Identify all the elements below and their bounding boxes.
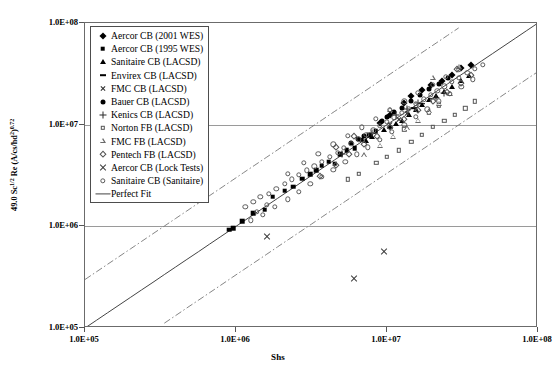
legend-item-label: Aercor CB (1995 WES) [111, 42, 203, 55]
legend-item[interactable]: Aercor CB (2001 WES) [94, 29, 203, 42]
data-point [346, 177, 350, 181]
data-point [452, 113, 456, 117]
data-point [231, 226, 236, 231]
triangle-filled-icon [94, 55, 111, 68]
y-axis-title: 49.0 Sc1/2 Re (A/cs/hd2)0.72 [9, 65, 19, 265]
legend-item[interactable]: Sanitaire CB (LACSD) [94, 55, 203, 68]
data-point [350, 274, 358, 282]
plus-icon [94, 108, 111, 121]
legend-item[interactable]: Pentech FB (LACSD) [94, 148, 203, 161]
data-point [314, 168, 319, 173]
x-large-icon [94, 161, 111, 174]
data-point [472, 99, 476, 103]
data-point [409, 139, 413, 143]
legend-item[interactable]: Aercor CB (1995 WES) [94, 42, 203, 55]
legend-item[interactable]: Perfect Fit [94, 187, 203, 200]
dash-icon [94, 69, 111, 82]
data-point [430, 75, 436, 80]
chart-root: 49.0 Sc1/2 Re (A/cs/hd2)0.72 Shs 1.0E+05… [0, 0, 556, 375]
diamond-filled-icon [94, 29, 111, 42]
legend-item-label: Norton FB (LACSD) [111, 121, 193, 134]
x-small-icon [94, 82, 111, 95]
x-axis-title: Shs [0, 352, 556, 362]
circle-filled-icon [94, 95, 111, 108]
x-axis-tick-mark [386, 327, 387, 332]
x-axis-tick-label: 1.0E+05 [49, 334, 119, 344]
legend-item-label: Bauer CB (LACSD) [111, 95, 189, 108]
data-point [390, 134, 396, 139]
line-icon [94, 187, 111, 200]
legend-item-label: Aercor CB (Lock Tests) [111, 161, 203, 174]
diamond-open-icon [94, 148, 111, 161]
triangle-open-icon [94, 135, 111, 148]
legend-item-label: FMC CB (LACSD) [111, 82, 187, 95]
chart-legend: Aercor CB (2001 WES)Aercor CB (1995 WES)… [90, 26, 209, 203]
data-point [270, 195, 275, 200]
y-axis-tick-mark [79, 225, 84, 226]
x-axis-tick-label: 1.0E+08 [502, 334, 556, 344]
data-point [374, 161, 378, 165]
data-point [326, 160, 331, 165]
x-axis-tick-label: 1.0E+07 [351, 334, 421, 344]
data-point [291, 185, 296, 190]
data-point [449, 84, 455, 89]
data-point [463, 106, 467, 110]
data-point [263, 232, 271, 240]
legend-item-label: Aercor CB (2001 WES) [111, 29, 203, 42]
data-point [381, 127, 387, 132]
x-axis-tick-mark [537, 327, 538, 332]
data-point [361, 152, 367, 157]
legend-item-label: Perfect Fit [111, 187, 151, 200]
legend-item-label: Envirex CB (LACSD) [111, 69, 197, 82]
legend-item[interactable]: Envirex CB (LACSD) [94, 69, 203, 82]
data-point [352, 146, 357, 151]
legend-item-label: Sanitaire CB (LACSD) [111, 55, 201, 68]
data-point [420, 132, 424, 136]
data-point [308, 172, 313, 177]
legend-item[interactable]: FMC CB (LACSD) [94, 82, 203, 95]
data-point [300, 176, 305, 181]
x-axis-tick-mark [84, 327, 85, 332]
data-point [282, 188, 287, 193]
legend-item[interactable]: Sanitaire CB (Sanitaire) [94, 174, 203, 187]
y-axis-tick-label: 1.0E+05 [12, 322, 78, 332]
legend-item-label: Sanitaire CB (Sanitaire) [111, 174, 203, 187]
x-axis-tick-mark [235, 327, 236, 332]
y-axis-tick-label: 1.0E+07 [12, 119, 78, 129]
legend-item[interactable]: Aercor CB (Lock Tests) [94, 161, 203, 174]
y-axis-tick-label: 1.0E+06 [12, 220, 78, 230]
circle-open-icon [94, 174, 111, 187]
x-axis-tick-label: 1.0E+06 [200, 334, 270, 344]
legend-item[interactable]: Kenics CB (LACSD) [94, 108, 203, 121]
data-point [385, 155, 389, 159]
data-point [380, 248, 388, 256]
y-axis-tick-label: 1.0E+08 [12, 17, 78, 27]
legend-item[interactable]: FMC FB (LACSD) [94, 135, 203, 148]
legend-item-label: FMC FB (LACSD) [111, 135, 186, 148]
data-point [240, 219, 245, 224]
data-point [430, 125, 434, 129]
square-filled-icon [94, 42, 111, 55]
legend-item-label: Pentech FB (LACSD) [111, 148, 196, 161]
data-point [442, 118, 446, 122]
y-axis-tick-mark [79, 124, 84, 125]
legend-item-label: Kenics CB (LACSD) [111, 108, 193, 121]
legend-item[interactable]: Norton FB (LACSD) [94, 121, 203, 134]
legend-item[interactable]: Bauer CB (LACSD) [94, 95, 203, 108]
data-point [397, 148, 401, 152]
square-open-icon [94, 121, 111, 134]
data-point [356, 171, 360, 175]
y-axis-tick-mark [79, 22, 84, 23]
data-point [436, 82, 441, 87]
reference-line [164, 72, 536, 324]
data-point [377, 143, 383, 148]
